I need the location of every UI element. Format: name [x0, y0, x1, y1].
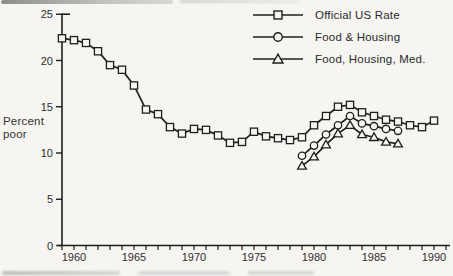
triangle-marker-icon [251, 52, 305, 66]
data-point-square [94, 48, 101, 55]
data-point-square [214, 132, 221, 139]
y-tick-label: 10 [41, 147, 53, 159]
data-point-square [178, 130, 185, 137]
data-point-square [418, 124, 425, 131]
data-point-square [118, 66, 125, 73]
y-tick-label: 20 [41, 55, 53, 67]
x-tick-label: 1970 [182, 251, 206, 263]
legend-row-official: Official US Rate [251, 4, 426, 26]
x-tick-label: 1960 [62, 251, 86, 263]
data-point-square [238, 138, 245, 145]
data-point-circle [346, 112, 353, 119]
data-point-square [274, 135, 281, 142]
legend-row-food-housing: Food & Housing [251, 26, 426, 48]
x-tick-label: 1975 [242, 251, 266, 263]
data-point-square [154, 111, 161, 118]
data-point-circle [358, 120, 365, 127]
data-point-circle [322, 131, 329, 138]
data-point-square [430, 117, 437, 124]
x-tick-label: 1985 [362, 251, 386, 263]
y-axis-title-line1: Percent [3, 115, 44, 128]
data-point-square [226, 139, 233, 146]
y-axis-title-line2: poor [3, 128, 44, 141]
data-point-square [298, 134, 305, 141]
y-tick-label: 15 [41, 101, 53, 113]
data-point-circle [310, 142, 317, 149]
square-marker-icon [251, 8, 305, 22]
y-axis-title: Percent poor [3, 115, 44, 141]
data-point-square [130, 82, 137, 89]
legend-label-food-housing: Food & Housing [315, 31, 400, 43]
data-point-circle [334, 122, 341, 129]
data-point-square [358, 109, 365, 116]
y-tick-label: 0 [47, 240, 53, 252]
scanned-figure-page: Percent poor 051015202519601965197019751… [0, 0, 453, 276]
data-point-square [190, 125, 197, 132]
data-point-square [382, 116, 389, 123]
legend-label-food-housing-med: Food, Housing, Med. [315, 53, 426, 65]
data-point-square [286, 136, 293, 143]
y-tick-label: 5 [47, 193, 53, 205]
x-tick-label: 1990 [422, 251, 446, 263]
data-point-square [310, 122, 317, 129]
data-point-square [82, 39, 89, 46]
data-point-circle [382, 125, 389, 132]
legend-label-official: Official US Rate [315, 9, 400, 21]
data-point-circle [370, 122, 377, 129]
data-point-square [142, 106, 149, 113]
data-point-square [106, 62, 113, 69]
data-point-square [262, 133, 269, 140]
data-point-square [394, 118, 401, 125]
legend-row-food-housing-med: Food, Housing, Med. [251, 48, 426, 70]
data-point-square [166, 124, 173, 131]
data-point-square [58, 35, 65, 42]
data-point-square [202, 126, 209, 133]
data-point-square [322, 112, 329, 119]
x-tick-label: 1980 [302, 251, 326, 263]
data-point-square [370, 112, 377, 119]
data-point-square [406, 122, 413, 129]
y-tick-label: 25 [41, 8, 53, 20]
data-point-circle [394, 127, 401, 134]
data-point-square [346, 101, 353, 108]
data-point-triangle [346, 121, 355, 129]
data-point-square [334, 103, 341, 110]
data-point-square [250, 128, 257, 135]
circle-marker-icon [251, 30, 305, 44]
x-tick-label: 1965 [122, 251, 146, 263]
data-point-circle [298, 152, 305, 159]
chart-legend: Official US Rate Food & Housing Food, Ho… [251, 4, 426, 70]
data-point-square [70, 37, 77, 44]
data-point-triangle [334, 129, 343, 137]
